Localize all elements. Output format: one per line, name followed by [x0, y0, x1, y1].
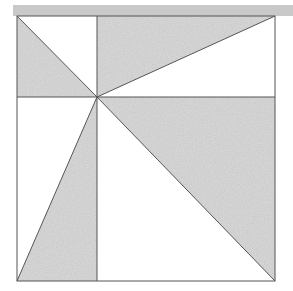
square-dissection-diagram — [0, 0, 293, 291]
